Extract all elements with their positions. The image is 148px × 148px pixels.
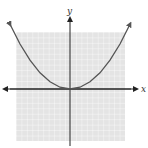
x-axis-label: x xyxy=(141,84,146,94)
y-axis-label: y xyxy=(66,6,73,16)
coordinate-plane: y x xyxy=(0,0,148,148)
